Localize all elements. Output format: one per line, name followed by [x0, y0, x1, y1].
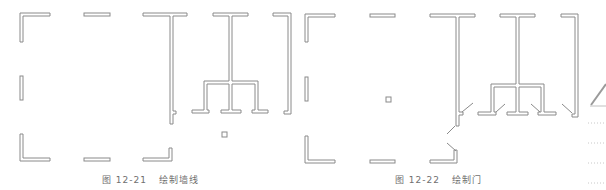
margin-decoration [588, 0, 606, 190]
figure-caption: 图 12-21绘制墙线 [102, 173, 199, 186]
floor-plan-walls [0, 0, 300, 190]
pencil-icon [590, 84, 606, 106]
floor-plan-doors [300, 0, 588, 190]
figure-caption: 图 12-22绘制门 [395, 173, 482, 186]
door-swing [562, 104, 572, 113]
figure-12-22: 图 12-22绘制门 [300, 0, 606, 190]
door-swing [447, 126, 455, 134]
door-swing [447, 143, 456, 151]
figure-12-21: 图 12-21绘制墙线 [0, 0, 300, 190]
figure-number: 图 12-21 [102, 175, 147, 185]
figure-title: 绘制墙线 [159, 175, 199, 185]
door-swing [496, 104, 505, 112]
figure-number: 图 12-22 [395, 175, 440, 185]
door-swing [531, 104, 540, 112]
figure-title: 绘制门 [452, 175, 482, 185]
door-swing [462, 103, 473, 112]
